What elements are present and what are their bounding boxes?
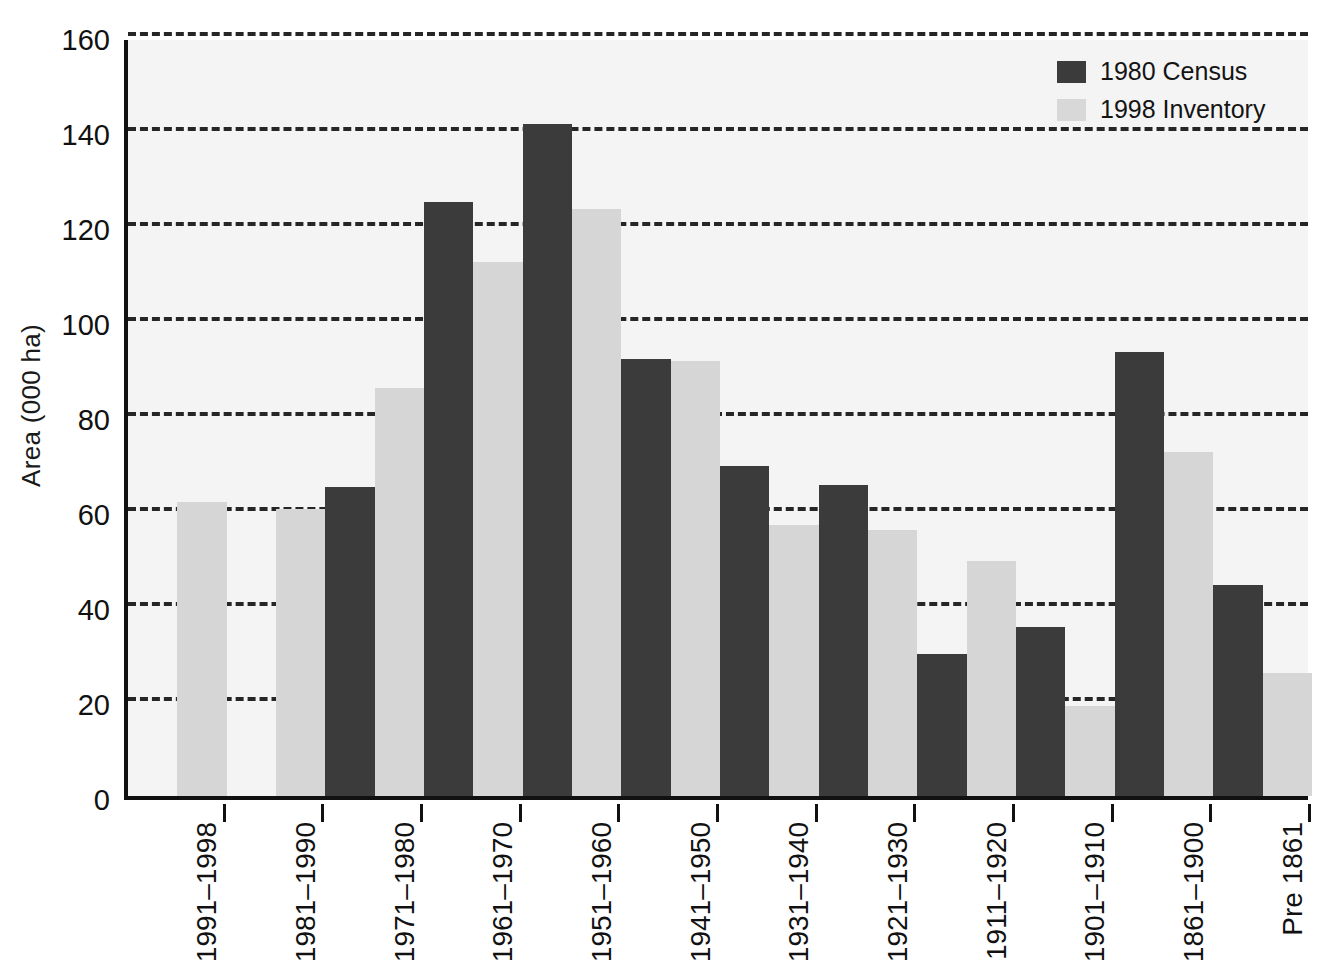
x-axis-tick-label: 1951–1960 xyxy=(585,820,619,965)
y-axis-tick-label: 40 xyxy=(78,594,110,627)
bar xyxy=(1016,627,1065,796)
y-axis-tick-label: 120 xyxy=(62,214,110,247)
y-axis-tick-label: 160 xyxy=(62,24,110,57)
bar xyxy=(177,502,226,797)
y-axis-tick-label: 0 xyxy=(94,784,110,817)
bar xyxy=(671,361,720,796)
y-axis-title-text: Area (000 ha) xyxy=(16,324,47,487)
bar xyxy=(1115,352,1164,796)
y-axis-tick-labels: 020406080100120140160 xyxy=(54,0,118,810)
legend-swatch-light xyxy=(1057,99,1086,121)
bar xyxy=(523,124,572,796)
bar xyxy=(1065,706,1114,796)
gridline xyxy=(128,32,1308,36)
y-axis-tick-label: 80 xyxy=(78,404,110,437)
bar xyxy=(325,487,374,796)
x-axis-tick-labels: 1991–19981981–19901971–19801961–19701951… xyxy=(124,820,1308,965)
x-axis-tick-label: 1911–1920 xyxy=(980,820,1014,965)
chart-legend: 1980 Census1998 Inventory xyxy=(1057,57,1265,124)
bar xyxy=(819,485,868,796)
x-axis-tick-label: 1981–1990 xyxy=(289,820,323,965)
bar xyxy=(572,209,621,796)
bar xyxy=(1213,585,1262,796)
legend-item: 1980 Census xyxy=(1057,57,1265,86)
plot-area xyxy=(124,40,1308,800)
legend-swatch-dark xyxy=(1057,61,1086,83)
bar xyxy=(967,561,1016,796)
y-axis-title: Area (000 ha) xyxy=(0,0,62,810)
x-axis-tick-label: Pre 1861 xyxy=(1276,820,1310,965)
y-axis-tick-label: 140 xyxy=(62,119,110,152)
bar-chart: Area (000 ha) 020406080100120140160 1991… xyxy=(0,0,1328,965)
bar xyxy=(473,262,522,796)
legend-label: 1998 Inventory xyxy=(1100,95,1265,124)
x-axis-tick-label: 1941–1950 xyxy=(684,820,718,965)
y-axis-tick-label: 100 xyxy=(62,309,110,342)
legend-label: 1980 Census xyxy=(1100,57,1247,86)
bar xyxy=(1164,452,1213,796)
bar xyxy=(276,509,325,796)
bar xyxy=(720,466,769,796)
x-axis-ticks xyxy=(124,800,1308,820)
x-axis-tick-label: 1971–1980 xyxy=(388,820,422,965)
legend-item: 1998 Inventory xyxy=(1057,95,1265,124)
bar xyxy=(1263,673,1312,797)
y-axis-tick-label: 60 xyxy=(78,499,110,532)
bar xyxy=(868,530,917,796)
bar xyxy=(375,388,424,797)
x-axis-tick-label: 1921–1930 xyxy=(881,820,915,965)
bar xyxy=(917,654,966,797)
bar xyxy=(769,525,818,796)
x-axis-tick-label: 1931–1940 xyxy=(782,820,816,965)
bar xyxy=(621,359,670,796)
x-axis-tick-label: 1901–1910 xyxy=(1078,820,1112,965)
x-axis-tick-label: 1991–1998 xyxy=(190,820,224,965)
x-axis-tick-label: 1961–1970 xyxy=(486,820,520,965)
y-axis-tick-label: 20 xyxy=(78,689,110,722)
bar xyxy=(424,202,473,796)
bars-layer xyxy=(128,40,1308,796)
x-axis-tick-label: 1861–1900 xyxy=(1177,820,1211,965)
